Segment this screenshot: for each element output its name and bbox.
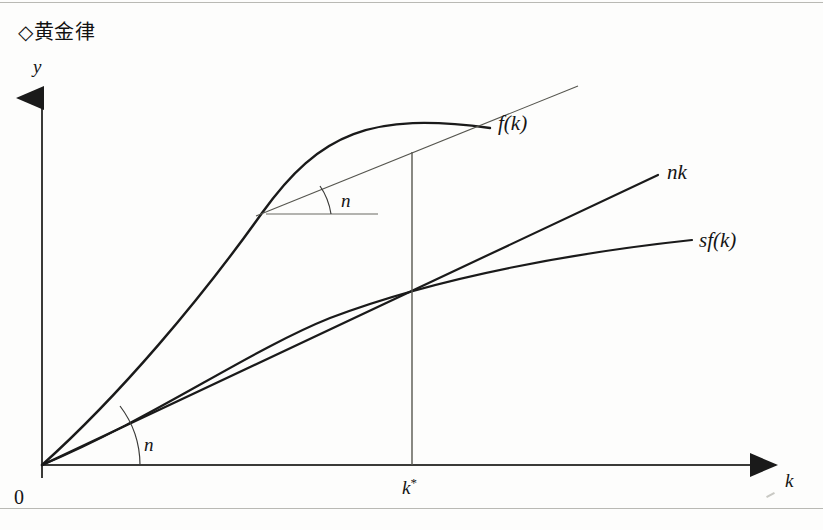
y-axis-label: y [33, 56, 41, 78]
origin-label: 0 [14, 486, 24, 509]
tangent-line [256, 86, 578, 216]
curve-label-production: f(k) [498, 111, 527, 136]
origin-angle-arc [120, 406, 140, 465]
figure-canvas: ◇黄金律 y k 0 k* [0, 0, 823, 530]
x-axis-label: k [785, 470, 793, 492]
golden-rule-diagram [0, 0, 823, 530]
angle-label-tangent: n [341, 190, 351, 212]
production-function-curve [42, 123, 490, 465]
curve-label-depreciation: nk [667, 160, 687, 185]
angle-label-origin: n [144, 434, 154, 456]
page-rule-bottom [0, 508, 823, 509]
tangent-angle-arc [320, 186, 331, 214]
curve-label-saving: sf(k) [699, 228, 736, 253]
k-star-tick-label: k* [402, 475, 417, 499]
saving-function-curve [42, 240, 692, 465]
page-rule-top [0, 2, 823, 3]
